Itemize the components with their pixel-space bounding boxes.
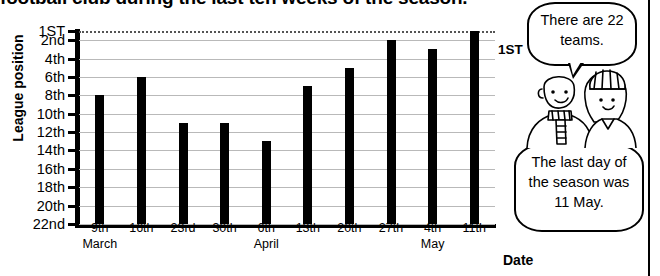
x-axis-day: 11th bbox=[462, 221, 485, 235]
y-axis-tick bbox=[68, 30, 79, 33]
x-axis-day: 13th bbox=[296, 221, 320, 235]
y-axis-tick bbox=[68, 39, 79, 42]
x-axis-month: April bbox=[254, 237, 279, 251]
x-axis-label: 27th bbox=[379, 221, 403, 235]
plot-area: 1ST2nd4th6th8th10th12th14th16th18th20th2… bbox=[79, 31, 495, 224]
y-axis-tick bbox=[68, 58, 79, 61]
y-axis-label: 10th bbox=[5, 106, 65, 122]
y-axis-label: 18th bbox=[5, 179, 65, 195]
cartoon-people bbox=[522, 62, 642, 148]
x-axis-month: May bbox=[421, 237, 445, 251]
speech-bubble-last-day: The last day of the season was 11 May. bbox=[514, 144, 644, 232]
x-axis-label: 23rd bbox=[170, 221, 195, 235]
y-axis-tick bbox=[68, 168, 79, 171]
bar bbox=[303, 86, 312, 224]
page-title: football club during the last ten weeks … bbox=[0, 0, 520, 9]
gridline bbox=[79, 31, 495, 33]
bar bbox=[95, 95, 104, 224]
x-axis-day: 16th bbox=[129, 221, 153, 235]
illustration-group: There are 22 teams. The last day of the … bbox=[510, 0, 650, 276]
x-axis-label: 11th bbox=[462, 221, 485, 235]
gridline bbox=[79, 40, 495, 41]
x-axis-label: 4thMay bbox=[421, 221, 445, 251]
x-axis-day: 23rd bbox=[170, 221, 195, 235]
y-axis-label: 14th bbox=[5, 142, 65, 158]
bar bbox=[387, 40, 396, 224]
x-axis-day: 9th bbox=[82, 221, 117, 235]
y-axis-tick bbox=[68, 149, 79, 152]
speech-bubble-teams: There are 22 teams. bbox=[527, 2, 637, 66]
y-axis-label: 2nd bbox=[5, 32, 65, 48]
y-axis-label: 20th bbox=[5, 198, 65, 214]
bar bbox=[345, 68, 354, 224]
bald-man-icon bbox=[527, 77, 593, 148]
x-axis-day: 30th bbox=[212, 221, 236, 235]
x-axis-label: 16th bbox=[129, 221, 153, 235]
y-axis-tick bbox=[68, 223, 79, 226]
bar bbox=[220, 123, 229, 224]
y-axis-label: 12th bbox=[5, 124, 65, 140]
y-axis-tick bbox=[68, 205, 79, 208]
x-axis-day: 27th bbox=[379, 221, 403, 235]
x-axis-day: 4th bbox=[421, 221, 445, 235]
x-axis-day: 6th bbox=[254, 221, 279, 235]
y-axis-tick bbox=[68, 131, 79, 134]
bar bbox=[262, 141, 271, 224]
bar bbox=[179, 123, 188, 224]
bar bbox=[428, 49, 437, 224]
x-axis-day: 20th bbox=[337, 221, 361, 235]
y-axis-tick bbox=[68, 94, 79, 97]
y-axis-label: 22nd bbox=[5, 216, 65, 232]
x-axis-label: 13th bbox=[296, 221, 320, 235]
bar bbox=[137, 77, 146, 224]
x-axis-label: 9thMarch bbox=[82, 221, 117, 251]
x-axis-label: 20th bbox=[337, 221, 361, 235]
y-axis-label: 8th bbox=[5, 87, 65, 103]
y-axis-label: 16th bbox=[5, 161, 65, 177]
worksheet-page: football club during the last ten weeks … bbox=[0, 0, 660, 276]
y-axis-tick bbox=[68, 186, 79, 189]
y-axis-label: 4th bbox=[5, 51, 65, 67]
bar-chart: League position 1ST2nd4th6th8th10th12th1… bbox=[0, 20, 510, 276]
x-axis-label: 30th bbox=[212, 221, 236, 235]
x-axis-month: March bbox=[82, 237, 117, 251]
bar bbox=[470, 31, 479, 224]
y-axis-tick bbox=[68, 76, 79, 79]
y-axis-label: 6th bbox=[5, 69, 65, 85]
woman-with-hat-icon bbox=[585, 70, 636, 148]
x-axis-label: 6thApril bbox=[254, 221, 279, 251]
y-axis-tick bbox=[68, 113, 79, 116]
